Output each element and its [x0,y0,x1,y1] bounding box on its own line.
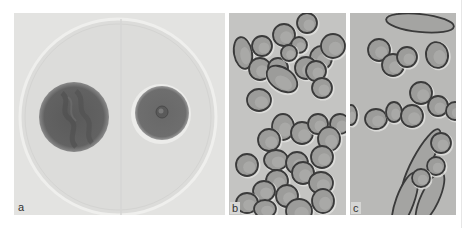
yeast-cell [312,78,335,101]
yeast-cell [247,89,274,114]
hypha [385,13,455,36]
yeast-cell [252,36,275,59]
yeast-cell [236,154,261,179]
yeast-cells-micrograph [229,13,346,215]
panel-a-petri-dish: a [14,13,225,215]
colony-large [39,82,109,152]
yeast-cell [423,39,453,72]
yeast-cell [397,47,420,70]
yeast-cell [431,133,454,156]
yeast-cell [350,105,360,128]
panel-label-a: a [16,201,26,213]
panel-label-b: b [230,202,240,214]
panel-label-c: c [351,202,361,214]
colony-small [131,84,191,144]
panel-b-micrograph: b [229,13,346,215]
hyphae-cells-micrograph [350,13,456,215]
yeast-cell [297,13,320,36]
yeast-cell [412,169,433,190]
panel-c-micrograph: c [350,13,456,215]
page-edge-line [461,0,462,228]
yeast-cell [401,105,426,130]
yeast-cell [312,189,337,216]
petri-dish-illustration [14,13,225,215]
yeast-cell [311,146,336,171]
yeast-cell [254,200,279,216]
